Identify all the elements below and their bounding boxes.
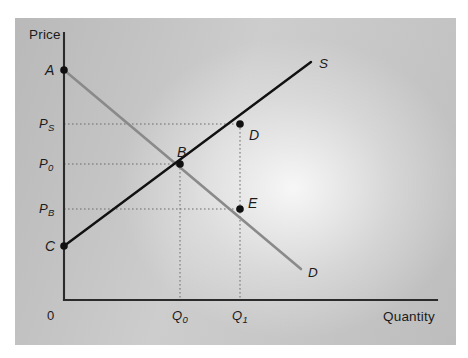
point-label-d: D: [249, 128, 259, 142]
point-c: [60, 242, 68, 250]
x-tick-q0-base: Q: [172, 308, 182, 323]
y-tick-p0-sub: 0: [48, 162, 53, 173]
x-tick-q1-sub: 1: [242, 314, 247, 325]
x-tick-q1-base: Q: [232, 308, 242, 323]
demand-curve-label: D: [308, 266, 318, 280]
x-axis-label: Quantity: [383, 310, 435, 324]
y-tick-pb-base: P: [39, 201, 48, 216]
data-points: [60, 66, 244, 250]
axes: [64, 33, 437, 300]
supply-demand-chart: [0, 0, 468, 358]
demand-curve: [64, 70, 301, 269]
point-label-a: A: [45, 63, 54, 77]
y-tick-ps-base: P: [39, 116, 48, 131]
point-b: [176, 160, 184, 168]
y-tick-p0: P0: [39, 157, 53, 170]
point-e: [236, 205, 244, 213]
supply-curve: [64, 62, 311, 246]
x-tick-q1: Q1: [232, 309, 247, 322]
y-tick-pb: PB: [39, 202, 54, 215]
point-a: [60, 66, 68, 74]
guide-lines: [64, 124, 240, 300]
supply-curve-label: S: [319, 57, 328, 71]
point-d: [236, 120, 244, 128]
y-axis-label: Price: [29, 28, 61, 42]
point-label-e: E: [248, 196, 257, 210]
x-tick-q0: Q0: [172, 309, 187, 322]
point-label-c: C: [45, 239, 55, 253]
y-tick-p0-base: P: [39, 156, 48, 171]
supply-demand-figure: Price Quantity 0 PS P0 PB Q0 Q1 A C B D …: [0, 0, 468, 358]
x-tick-q0-sub: 0: [182, 314, 187, 325]
point-label-b: B: [177, 145, 186, 159]
y-tick-ps: PS: [39, 117, 54, 130]
y-tick-pb-sub: B: [48, 207, 54, 218]
origin-label: 0: [47, 309, 54, 322]
y-tick-ps-sub: S: [48, 122, 54, 133]
